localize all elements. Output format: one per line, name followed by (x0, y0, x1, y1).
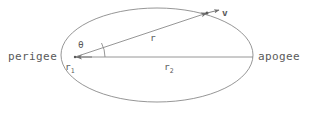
radius-r-label: r (150, 33, 156, 43)
orbit-ellipse (61, 8, 253, 102)
apogee-label: apogee (258, 51, 300, 62)
orbit-diagram: perigee apogee r1 r2 r v θ (0, 0, 312, 113)
theta-label: θ (78, 40, 84, 50)
r2-subscript: 2 (170, 67, 174, 75)
r2-label: r2 (164, 62, 174, 74)
r1-subscript: 1 (71, 67, 75, 75)
focus-point (74, 56, 76, 58)
r1-label: r1 (65, 62, 75, 74)
perigee-label: perigee (8, 51, 57, 62)
velocity-v-label: v (222, 8, 228, 18)
theta-angle-arc (102, 43, 106, 57)
velocity-vector-v (207, 10, 219, 13)
